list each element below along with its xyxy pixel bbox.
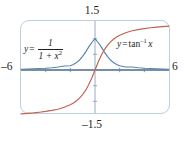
annotation-reciprocal-curve: y = 1 1 + x2 <box>24 39 63 61</box>
annotation-red-equals: = <box>121 39 128 49</box>
y-axis-max-label: 1.5 <box>0 5 184 17</box>
annotation-red-function: tan <box>129 39 141 49</box>
y-axis-min-label: –1.5 <box>0 119 184 131</box>
figure-container: 1.5 –1.5 –6 6 y = 1 1 + x2 y=tan–1x <box>0 0 184 142</box>
annotation-blue-fraction: 1 1 + x2 <box>38 39 63 61</box>
annotation-arctangent-curve: y=tan–1x <box>117 38 152 50</box>
annotation-blue-denominator: 1 + x2 <box>38 50 63 62</box>
annotation-red-argument: x <box>147 39 153 49</box>
x-axis-max-label: 6 <box>172 61 178 73</box>
annotation-blue-denominator-exp: 2 <box>59 49 62 56</box>
annotation-blue-equals: = <box>28 45 35 55</box>
annotation-blue-denominator-a: 1 + <box>39 51 55 61</box>
annotation-red-exponent: –1 <box>140 37 147 44</box>
x-axis-min-label: –6 <box>1 61 13 73</box>
annotation-blue-numerator: 1 <box>45 39 56 49</box>
